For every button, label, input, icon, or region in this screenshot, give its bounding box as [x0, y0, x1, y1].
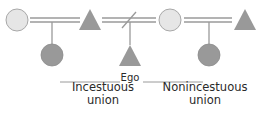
dissolved-marriage-line-m1-f2	[102, 12, 156, 28]
female-circle-1	[6, 9, 28, 31]
nonincestuous-caption-line2: union	[150, 94, 260, 107]
male-triangle-2	[234, 9, 256, 30]
female-circle-2	[159, 9, 181, 31]
incestuous-union-caption: Incestuous union	[58, 81, 148, 107]
marriage-line-f1-m1	[30, 18, 80, 22]
incestuous-caption-line2: union	[58, 94, 148, 107]
male-triangle-1	[79, 9, 101, 30]
child-circle-2	[198, 44, 220, 66]
nonincestuous-union-caption: Nonincestuous union	[150, 81, 260, 107]
ego-triangle	[119, 45, 141, 66]
marriage-line-f2-m2	[184, 18, 232, 22]
divorce-slash	[122, 12, 136, 28]
child-circle-1	[41, 44, 63, 66]
